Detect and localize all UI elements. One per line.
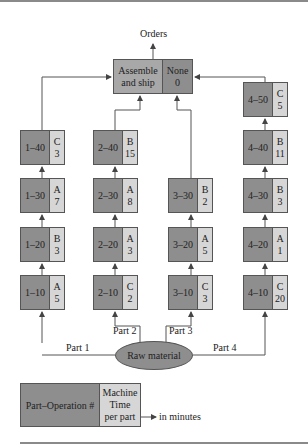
op-machine-time: A8	[123, 179, 137, 212]
op-machine: A	[201, 233, 208, 245]
op-box-2-10: 2–10C2	[93, 275, 138, 310]
op-machine-time: A1	[273, 228, 287, 261]
op-machine-time: A5	[50, 276, 64, 309]
op-number: 4–10	[244, 276, 273, 309]
part-4-label: Part 4	[213, 342, 237, 353]
op-time: 8	[128, 196, 133, 208]
op-number: 3–10	[169, 276, 198, 309]
op-machine-time: A7	[50, 179, 64, 212]
op-machine: A	[53, 281, 60, 293]
op-time: 3	[55, 245, 60, 257]
op-number: 2–40	[94, 131, 123, 164]
legend-part-operation: Part–Operation #	[21, 384, 100, 426]
op-machine: B	[277, 136, 284, 148]
op-machine: B	[202, 184, 209, 196]
op-machine: A	[126, 184, 133, 196]
op-time: 7	[55, 196, 60, 208]
op-machine: A	[126, 233, 133, 245]
op-time: 3	[203, 293, 208, 305]
op-time: 5	[55, 293, 60, 305]
op-time: 20	[275, 293, 285, 305]
op-number: 1–10	[21, 276, 50, 309]
op-number: 1–20	[21, 228, 50, 261]
op-number: 3–20	[169, 228, 198, 261]
assemble-machine: None	[167, 65, 189, 77]
op-machine-time: B3	[50, 228, 64, 261]
part-2-label: Part 2	[113, 325, 137, 336]
op-machine: B	[54, 233, 61, 245]
op-time: 2	[203, 196, 208, 208]
assemble-time: 0	[175, 77, 180, 89]
op-number: 3–30	[169, 179, 198, 212]
part-1-label: Part 1	[66, 342, 90, 353]
op-box-3-30: 3–30B2	[168, 178, 213, 213]
op-box-2-20: 2–20A3	[93, 227, 138, 262]
op-machine-time: A5	[198, 228, 212, 261]
assemble-line2: and ship	[121, 77, 155, 89]
op-box-4-40: 4–40B11	[243, 130, 288, 165]
op-box-4-50: 4–50C5	[243, 82, 288, 117]
op-box-4-30: 4–30B3	[243, 178, 288, 213]
op-time: 5	[278, 100, 283, 112]
op-box-2-30: 2–30A8	[93, 178, 138, 213]
op-machine: C	[127, 281, 134, 293]
assemble-and-ship-box: Assemble and ship None 0	[113, 59, 193, 94]
op-time: 11	[275, 148, 285, 160]
op-box-4-20: 4–20A1	[243, 227, 288, 262]
assemble-name: Assemble and ship	[114, 60, 163, 93]
op-box-1-30: 1–30A7	[20, 178, 65, 213]
op-machine: B	[277, 184, 284, 196]
raw-material-label: Raw material	[127, 350, 181, 361]
op-number: 4–40	[244, 131, 273, 164]
op-time: 3	[55, 148, 60, 160]
op-number: 4–50	[244, 83, 273, 116]
op-time: 15	[125, 148, 135, 160]
op-machine-time: C3	[50, 131, 64, 164]
op-time: 1	[278, 245, 283, 257]
op-machine-time: B2	[198, 179, 212, 212]
op-time: 3	[278, 196, 283, 208]
legend-box: Part–Operation # Machine Time per part	[20, 383, 141, 427]
op-machine-time: C5	[273, 83, 287, 116]
op-machine: A	[53, 184, 60, 196]
op-machine: C	[277, 281, 284, 293]
op-box-3-10: 3–10C3	[168, 275, 213, 310]
op-box-1-20: 1–20B3	[20, 227, 65, 262]
op-machine-time: B3	[273, 179, 287, 212]
op-number: 1–30	[21, 179, 50, 212]
raw-material-node: Raw material	[115, 341, 193, 370]
op-machine-time: B15	[123, 131, 137, 164]
op-machine-time: B11	[273, 131, 287, 164]
op-number: 4–30	[244, 179, 273, 212]
op-machine-time: A3	[123, 228, 137, 261]
legend-line1: Machine	[103, 387, 138, 399]
op-time: 2	[128, 293, 133, 305]
op-box-2-40: 2–40B15	[93, 130, 138, 165]
op-time: 5	[203, 245, 208, 257]
op-number: 2–30	[94, 179, 123, 212]
legend-line3: per part	[105, 411, 136, 423]
bottom-rule	[20, 442, 308, 444]
assemble-machine-time: None 0	[163, 60, 192, 93]
part-3-label: Part 3	[169, 325, 193, 336]
op-machine: C	[202, 281, 209, 293]
op-number: 2–20	[94, 228, 123, 261]
legend-note: in minutes	[159, 411, 201, 422]
op-machine-time: C2	[123, 276, 137, 309]
op-number: 2–10	[94, 276, 123, 309]
op-box-3-20: 3–20A5	[168, 227, 213, 262]
op-machine: B	[127, 136, 134, 148]
op-machine: C	[54, 136, 61, 148]
op-box-4-10: 4–10C20	[243, 275, 288, 310]
op-number: 4–20	[244, 228, 273, 261]
op-machine-time: C3	[198, 276, 212, 309]
op-box-1-10: 1–10A5	[20, 275, 65, 310]
op-number: 1–40	[21, 131, 50, 164]
op-box-1-40: 1–40C3	[20, 130, 65, 165]
orders-label: Orders	[140, 28, 167, 39]
op-machine: C	[277, 88, 284, 100]
assemble-line1: Assemble	[118, 65, 157, 77]
legend-line2: Time	[110, 399, 131, 411]
op-machine-time: C20	[273, 276, 287, 309]
op-machine: A	[276, 233, 283, 245]
